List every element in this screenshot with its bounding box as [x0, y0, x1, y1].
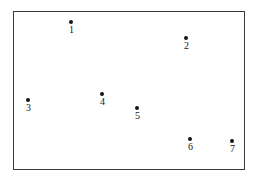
- scatter-plot-figure: 1234567: [0, 0, 259, 185]
- point-label: 7: [228, 144, 237, 154]
- point-label: 2: [182, 41, 191, 51]
- point-label: 4: [98, 97, 107, 107]
- plot-frame: 1234567: [13, 11, 245, 170]
- point-label: 3: [24, 103, 33, 113]
- point-label: 1: [67, 25, 76, 35]
- point-label: 5: [133, 111, 142, 121]
- point-label: 6: [186, 142, 195, 152]
